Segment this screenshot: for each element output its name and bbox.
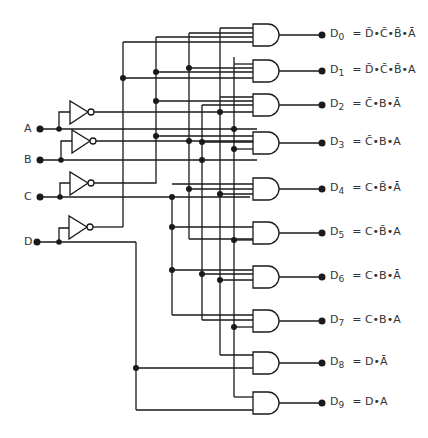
output-index: 7 — [338, 318, 344, 328]
output-expression: = C•B•Ā — [352, 269, 400, 282]
output-label-d3: D3= C̄•B•A — [330, 135, 401, 148]
inverters — [56, 101, 96, 245]
output-expression: = C̄•B•A — [352, 135, 400, 148]
output-expression: = D̄•C̄•B̄•A — [352, 63, 415, 76]
output-index: 1 — [338, 68, 344, 78]
and-gates — [253, 24, 279, 414]
output-index: 2 — [338, 102, 344, 112]
output-label-d1: D1= D̄•C̄•B̄•A — [330, 63, 416, 76]
output-expression: = C̄•B•Ā — [352, 97, 400, 110]
input-terminals — [34, 126, 44, 246]
output-label-d9: D9= D•A — [330, 395, 387, 408]
output-index: 9 — [338, 400, 344, 410]
output-index: 3 — [338, 140, 344, 150]
output-expression: = C•B̄•Ā — [352, 181, 400, 194]
output-expression: = D•A — [352, 395, 387, 408]
input-label-a: A — [24, 122, 32, 135]
output-index: 6 — [338, 274, 344, 284]
output-wires — [279, 32, 326, 407]
output-label-d6: D6= C•B•Ā — [330, 269, 401, 282]
output-expression: = C•B̄•A — [352, 225, 400, 238]
output-label-d7: D7= C•B•A — [330, 313, 401, 326]
input-label-b: B — [24, 153, 32, 166]
input-label-d: D — [24, 235, 32, 248]
output-index: 0 — [338, 32, 344, 42]
input-label-c: C — [24, 190, 32, 203]
output-label-d4: D4= C•B̄•Ā — [330, 181, 401, 194]
output-label-d2: D2= C̄•B•Ā — [330, 97, 401, 110]
output-expression: = D•Ā — [352, 355, 387, 368]
output-label-d8: D8= D•Ā — [330, 355, 387, 368]
output-index: 5 — [338, 230, 344, 240]
output-expression: = D̄•C̄•B̄•Ā — [352, 27, 415, 40]
output-label-d5: D5= C•B̄•A — [330, 225, 401, 238]
output-index: 8 — [338, 360, 344, 370]
buses — [120, 28, 237, 410]
output-label-d0: D0= D̄•C̄•B̄•Ā — [330, 27, 416, 40]
output-index: 4 — [338, 186, 344, 196]
output-expression: = C•B•A — [352, 313, 400, 326]
